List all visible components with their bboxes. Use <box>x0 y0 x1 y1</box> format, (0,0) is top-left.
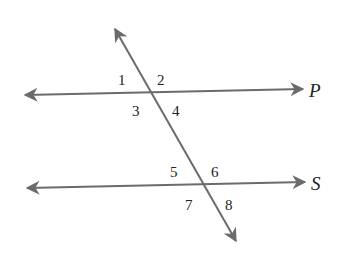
parallel-lines-diagram: P S 1 2 3 4 5 6 7 8 <box>0 0 341 261</box>
line-p-label: P <box>308 80 321 101</box>
angle-7-label: 7 <box>185 197 193 213</box>
angle-3-label: 3 <box>132 103 140 119</box>
angle-8-label: 8 <box>225 197 233 213</box>
line-p <box>25 89 303 95</box>
angle-4-label: 4 <box>172 103 180 119</box>
line-s-label: S <box>311 173 321 194</box>
angle-6-label: 6 <box>211 164 219 180</box>
angle-5-label: 5 <box>170 164 178 180</box>
angle-1-label: 1 <box>118 72 126 88</box>
line-s <box>27 182 305 188</box>
angle-2-label: 2 <box>157 72 165 88</box>
transversal-line <box>115 29 236 241</box>
diagram-svg: P S 1 2 3 4 5 6 7 8 <box>0 0 341 261</box>
